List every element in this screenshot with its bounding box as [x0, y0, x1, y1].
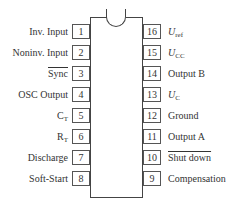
pin-label: Output A	[168, 129, 205, 144]
pin-number-box: 7	[72, 150, 90, 165]
pin-number-box: 13	[143, 87, 161, 102]
chip-top-edge-left	[90, 17, 107, 18]
pin-number-box: 10	[143, 150, 161, 165]
pin-number-box: 9	[143, 171, 161, 186]
pin-label: Compensation	[168, 171, 226, 186]
pin-number-box: 16	[143, 24, 161, 39]
pin-label: Sync	[48, 66, 68, 81]
pin-label: Output B	[168, 66, 205, 81]
pin-number-box: 12	[143, 108, 161, 123]
pin-number-box: 1	[72, 24, 90, 39]
pin-number-box: 3	[72, 66, 90, 81]
pin-label: Inv. Input	[29, 24, 68, 39]
pin-number-box: 14	[143, 66, 161, 81]
pin-label: OSC Output	[18, 87, 68, 102]
pin-number-box: 4	[72, 87, 90, 102]
pin-number-box: 8	[72, 171, 90, 186]
pin-label: Discharge	[28, 150, 68, 165]
chip-body	[90, 17, 143, 198]
pin-label: Uref	[168, 24, 183, 43]
pin-number-box: 2	[72, 45, 90, 60]
pin-label: CT	[57, 108, 68, 127]
pin-number-box: 5	[72, 108, 90, 123]
pin-label: Noninv. Input	[13, 45, 68, 60]
pin-label: Soft-Start	[29, 171, 68, 186]
pin-number-box: 15	[143, 45, 161, 60]
pin-label: UCC	[168, 45, 185, 64]
pin-label: RT	[57, 129, 68, 148]
pin-label: Shut down	[168, 150, 211, 165]
pin-number-box: 11	[143, 129, 161, 144]
pin-label: UC	[168, 87, 180, 106]
chip-top-edge-right	[126, 17, 143, 18]
pin-label: Ground	[168, 108, 199, 123]
pin-number-box: 6	[72, 129, 90, 144]
